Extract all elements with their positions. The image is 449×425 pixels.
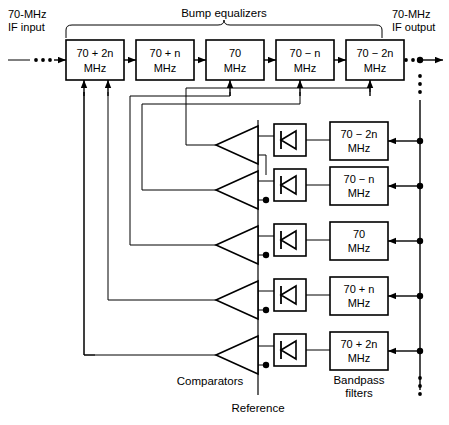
diagram-canvas: Bump equalizers 70-MHz IF input 70-MHz I… bbox=[0, 0, 449, 425]
block-diagram: Bump equalizers 70-MHz IF input 70-MHz I… bbox=[0, 0, 449, 425]
reference-junction bbox=[263, 252, 269, 258]
equalizer-freq: 70 bbox=[229, 47, 241, 59]
comparator-triangle[interactable] bbox=[216, 336, 258, 374]
filter-units: MHz bbox=[348, 242, 371, 254]
filter-units: MHz bbox=[348, 352, 371, 364]
reference-junction bbox=[263, 197, 269, 203]
output-bus-ellipsis-icon bbox=[418, 74, 422, 94]
equalizer-units: MHz bbox=[294, 62, 317, 74]
filter-freq: 70 + n bbox=[344, 283, 375, 295]
equalizer-block[interactable]: 70 + 2n MHz bbox=[66, 40, 124, 80]
filter-units: MHz bbox=[348, 142, 371, 154]
control-path-4 bbox=[108, 92, 225, 300]
filter-freq: 70 − 2n bbox=[340, 128, 377, 140]
reference-junction bbox=[263, 307, 269, 313]
comparators-label: Comparators bbox=[177, 375, 244, 387]
bandpass-bus-ellipsis-icon bbox=[418, 376, 422, 396]
brace-label: Bump equalizers bbox=[181, 7, 267, 19]
comparator-row: 70 + 2n MHz bbox=[216, 332, 423, 374]
reference-label: Reference bbox=[231, 402, 284, 414]
comparator-triangle[interactable] bbox=[216, 226, 258, 264]
equalizer-freq: 70 − 2n bbox=[356, 47, 393, 59]
output-label-line2: IF output bbox=[392, 21, 435, 33]
filter-units: MHz bbox=[348, 187, 371, 199]
equalizer-block[interactable]: 70 + n MHz bbox=[136, 40, 194, 80]
bump-equalizers-brace bbox=[66, 20, 382, 38]
bus-junction bbox=[417, 348, 423, 354]
equalizer-freq: 70 + 2n bbox=[76, 47, 113, 59]
input-label-line2: IF input bbox=[8, 21, 45, 33]
reference-junction bbox=[263, 362, 269, 368]
filter-freq: 70 + 2n bbox=[340, 338, 377, 350]
comparator-row: 70 − 2n MHz bbox=[216, 122, 423, 175]
bandpass-label-line2: filters bbox=[345, 387, 373, 399]
control-path-3 bbox=[130, 92, 230, 245]
equalizer-freq: 70 + n bbox=[150, 47, 181, 59]
bandpass-label-line1: Bandpass bbox=[333, 374, 384, 386]
input-ellipsis-icon bbox=[34, 58, 52, 62]
bus-junction bbox=[417, 293, 423, 299]
comparator-triangle[interactable] bbox=[216, 281, 258, 319]
equalizer-block[interactable]: 70 − n MHz bbox=[276, 40, 334, 80]
bus-junction bbox=[417, 183, 423, 189]
equalizer-freq: 70 − n bbox=[290, 47, 321, 59]
filter-freq: 70 bbox=[353, 228, 365, 240]
comparator-row: 70 MHz bbox=[216, 222, 423, 264]
equalizer-units: MHz bbox=[364, 62, 387, 74]
equalizer-units: MHz bbox=[224, 62, 247, 74]
control-path-5 bbox=[84, 92, 225, 355]
equalizer-units: MHz bbox=[84, 62, 107, 74]
filter-freq: 70 − n bbox=[344, 173, 375, 185]
comparator-row: 70 − n MHz bbox=[216, 167, 423, 209]
equalizer-units: MHz bbox=[154, 62, 177, 74]
filter-units: MHz bbox=[348, 297, 371, 309]
comparator-triangle[interactable] bbox=[216, 126, 258, 164]
input-label-line1: 70-MHz bbox=[8, 8, 47, 20]
comparator-row: 70 + n MHz bbox=[216, 277, 423, 319]
output-label-line1: 70-MHz bbox=[392, 8, 431, 20]
output-tap-junction bbox=[417, 57, 423, 63]
bus-junction bbox=[417, 238, 423, 244]
comparator-triangle[interactable] bbox=[216, 171, 258, 209]
equalizer-block[interactable]: 70 MHz bbox=[206, 40, 264, 80]
equalizer-block[interactable]: 70 − 2n MHz bbox=[346, 40, 404, 80]
bus-junction bbox=[417, 138, 423, 144]
